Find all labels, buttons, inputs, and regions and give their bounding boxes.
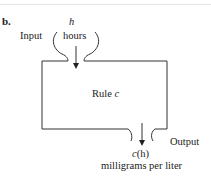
- rule-machine-diagram: [0, 0, 211, 179]
- input-funnel-right-icon: [84, 32, 99, 61]
- box-outline: [42, 61, 128, 129]
- input-funnel-left-icon: [53, 32, 68, 61]
- output-funnel-left-icon: [128, 129, 132, 141]
- output-funnel-right-icon: [152, 129, 155, 141]
- box-outline-right: [84, 61, 167, 129]
- output-arrow-head-icon: [139, 140, 145, 146]
- input-arrow-head-icon: [73, 63, 79, 69]
